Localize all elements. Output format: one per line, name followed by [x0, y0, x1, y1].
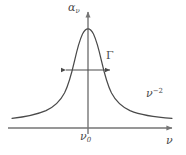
- y-axis-label: αν: [68, 2, 80, 15]
- plot-canvas: [0, 0, 186, 155]
- center-frequency-label: ν0: [80, 131, 91, 144]
- y-axis-label-subscript: ν: [75, 7, 79, 15]
- x-axis-label: ν: [166, 135, 173, 146]
- absorption-profile-curve: [12, 29, 172, 118]
- fwhm-label: Γ: [106, 50, 114, 61]
- wing-asymptote-label: ν−2: [146, 88, 163, 99]
- wing-asymptote-base: ν: [146, 87, 153, 100]
- lorentzian-line-profile-figure: αν Γ ν−2 ν0 ν: [0, 0, 186, 155]
- center-frequency-base: ν: [80, 130, 87, 143]
- center-frequency-subscript: 0: [87, 136, 91, 144]
- wing-asymptote-exponent: −2: [153, 87, 163, 95]
